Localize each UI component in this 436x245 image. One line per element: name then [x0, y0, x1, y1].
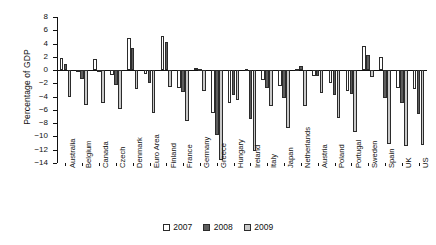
legend-swatch-2008	[203, 224, 210, 231]
y-axis-tick-label: −2	[0, 79, 48, 87]
bar-belgium-2009	[84, 70, 88, 105]
y-axis-tick	[53, 83, 57, 84]
bar-group	[161, 17, 173, 163]
x-axis-tick	[335, 163, 336, 166]
y-axis-tick	[53, 44, 57, 45]
x-axis-label-ireland: Ireland	[254, 145, 262, 168]
bar-italy-2009	[269, 70, 273, 106]
bar-group	[379, 17, 391, 163]
x-axis-label-austria: Austria	[321, 144, 329, 168]
bar-group	[211, 17, 223, 163]
x-axis-tick	[217, 163, 218, 166]
y-axis-tick	[53, 97, 57, 98]
bar-finland-2009	[168, 70, 172, 87]
y-axis-tick	[53, 136, 57, 137]
bar-poland-2009	[337, 70, 341, 118]
legend-label-2008: 2008	[214, 222, 233, 232]
bar-spain-2007	[379, 57, 383, 70]
bar-group	[278, 17, 290, 163]
y-axis-tick	[53, 150, 57, 151]
legend-label-2009: 2009	[254, 222, 273, 232]
x-axis-tick	[284, 163, 285, 166]
bar-finland-2008	[165, 42, 169, 70]
y-axis-tick-label: 6	[0, 26, 48, 34]
x-axis-label-portugal: Portugal	[355, 140, 363, 168]
x-axis-tick	[200, 163, 201, 166]
x-axis-label-italy: Italy	[270, 154, 278, 168]
x-axis-tick	[65, 163, 66, 166]
y-axis-tick-label: −6	[0, 106, 48, 114]
x-axis-label-germany: Germany	[203, 137, 211, 168]
x-axis-tick	[150, 163, 151, 166]
x-axis-tick	[351, 163, 352, 166]
bar-canada-2007	[93, 59, 97, 70]
bar-group	[245, 17, 257, 163]
y-axis-tick	[53, 123, 57, 124]
x-axis-tick	[183, 163, 184, 166]
bar-germany-2009	[202, 70, 206, 91]
x-axis-label-netherlands: Netherlands	[304, 127, 312, 168]
legend-item-2007[interactable]: 2007	[163, 222, 192, 232]
y-axis-tick	[53, 110, 57, 111]
bar-group	[110, 17, 122, 163]
bar-france-2009	[185, 70, 189, 120]
bar-group	[329, 17, 341, 163]
x-axis-label-canada: Canada	[102, 141, 110, 168]
x-axis-label-denmark: Denmark	[136, 137, 144, 168]
bar-sweden-2009	[370, 70, 374, 77]
y-axis-tick	[53, 57, 57, 58]
x-axis-label-belgium: Belgium	[85, 141, 93, 168]
legend-swatch-2007	[163, 224, 170, 231]
x-axis-label-spain: Spain	[388, 149, 396, 168]
y-axis-tick-label: 8	[0, 13, 48, 21]
legend-swatch-2009	[244, 224, 251, 231]
x-axis-label-hungary: Hungary	[237, 139, 245, 168]
bar-hungary-2009	[236, 70, 240, 100]
x-axis-label-greece: Greece	[220, 143, 228, 168]
y-axis-tick	[53, 30, 57, 31]
bar-canada-2009	[101, 70, 105, 103]
x-axis-tick	[234, 163, 235, 166]
x-axis-tick	[301, 163, 302, 166]
bar-netherlands-2009	[303, 70, 307, 106]
x-axis-tick	[116, 163, 117, 166]
y-axis-tick-label: −4	[0, 93, 48, 101]
bar-australia-2009	[68, 70, 72, 97]
bar-group	[396, 17, 408, 163]
y-axis-tick	[53, 70, 57, 71]
bar-group	[413, 17, 425, 163]
x-axis-tick	[368, 163, 369, 166]
legend-item-2008[interactable]: 2008	[203, 222, 232, 232]
chart-legend: 200720082009	[0, 222, 436, 232]
x-axis-label-sweden: Sweden	[371, 141, 379, 168]
legend-label-2007: 2007	[173, 222, 192, 232]
bar-group	[312, 17, 324, 163]
x-axis-tick	[419, 163, 420, 166]
bar-sweden-2008	[366, 55, 370, 70]
y-axis-tick-label: −12	[0, 146, 48, 154]
y-axis-tick-label: 2	[0, 53, 48, 61]
bar-us-2009	[421, 70, 425, 145]
y-axis-tick-label: −10	[0, 132, 48, 140]
x-axis-label-us: US	[422, 157, 430, 168]
bar-denmark-2008	[131, 48, 135, 70]
x-axis-tick	[133, 163, 134, 166]
bar-czech-2009	[118, 70, 122, 109]
y-axis-tick	[53, 17, 57, 18]
bar-japan-2009	[286, 70, 290, 128]
legend-item-2009[interactable]: 2009	[244, 222, 273, 232]
bar-ireland-2009	[253, 70, 257, 151]
bar-denmark-2009	[135, 70, 139, 89]
x-axis-label-czech: Czech	[119, 146, 127, 168]
x-axis-tick	[250, 163, 251, 166]
fiscal-balance-bar-chart: Percentage of GDP 86420−2−4−6−8−10−12−14…	[0, 0, 436, 245]
y-axis-tick-label: 4	[0, 40, 48, 48]
x-axis-label-euro-area: Euro Area	[153, 134, 161, 168]
y-axis-tick-label: 0	[0, 66, 48, 74]
y-axis-line	[57, 17, 58, 163]
x-axis-tick	[385, 163, 386, 166]
y-axis-tick-label: −14	[0, 159, 48, 167]
x-axis-tick	[318, 163, 319, 166]
x-axis-label-poland: Poland	[338, 144, 346, 168]
bar-portugal-2009	[353, 70, 357, 132]
